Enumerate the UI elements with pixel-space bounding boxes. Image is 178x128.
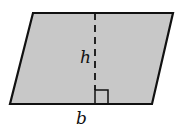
parallelogram-shape [10, 13, 173, 104]
base-label: b [76, 108, 87, 128]
height-label: h [80, 47, 91, 67]
parallelogram-diagram: h b [0, 0, 178, 128]
